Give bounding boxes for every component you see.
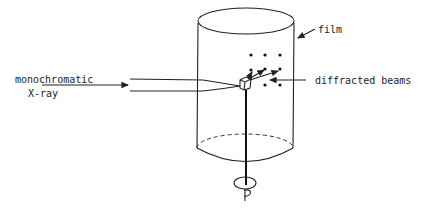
diffracted-beams bbox=[248, 70, 278, 80]
film-leader bbox=[298, 29, 315, 38]
diffracted-beams-label: diffracted beams bbox=[315, 75, 411, 86]
diffraction-spots bbox=[249, 53, 281, 86]
film-label: film bbox=[318, 24, 342, 35]
source-label-line2: X-ray bbox=[28, 88, 58, 99]
xray-diffraction-diagram: monochromatic X-ray film diffracted beam… bbox=[0, 0, 423, 208]
source-label-line1: monochromatic bbox=[15, 74, 93, 85]
